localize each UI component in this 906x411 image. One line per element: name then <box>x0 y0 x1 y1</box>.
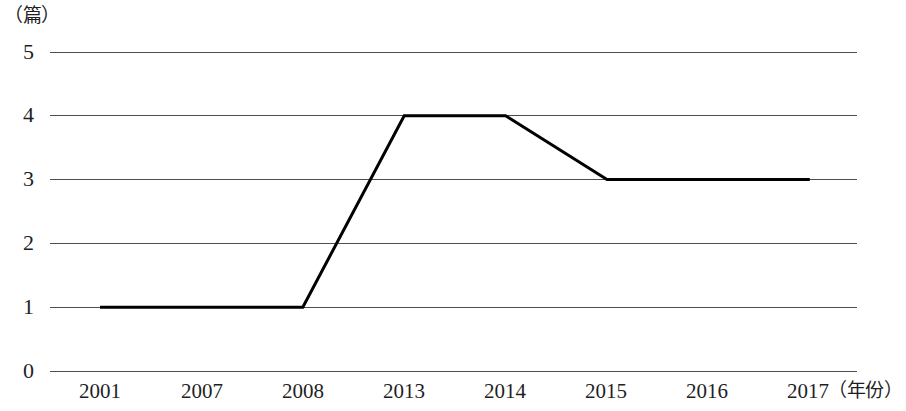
x-tick-label-2016: 2016 <box>662 381 752 402</box>
x-tick-label-2008: 2008 <box>258 381 348 402</box>
x-axis-unit-label: （年份） <box>828 381 902 400</box>
x-tick-label-2013: 2013 <box>359 381 449 402</box>
series-layer <box>0 0 906 411</box>
x-tick-label-2014: 2014 <box>460 381 550 402</box>
line-chart: （篇） 5 4 3 2 1 0 2001 2007 2008 2013 2014… <box>0 0 906 411</box>
series-line-articles <box>100 116 810 307</box>
x-tick-label-2015: 2015 <box>561 381 651 402</box>
x-tick-label-2001: 2001 <box>55 381 145 402</box>
x-tick-label-2007: 2007 <box>157 381 247 402</box>
plot-area: 5 4 3 2 1 0 2001 2007 2008 2013 2014 201… <box>0 0 906 411</box>
